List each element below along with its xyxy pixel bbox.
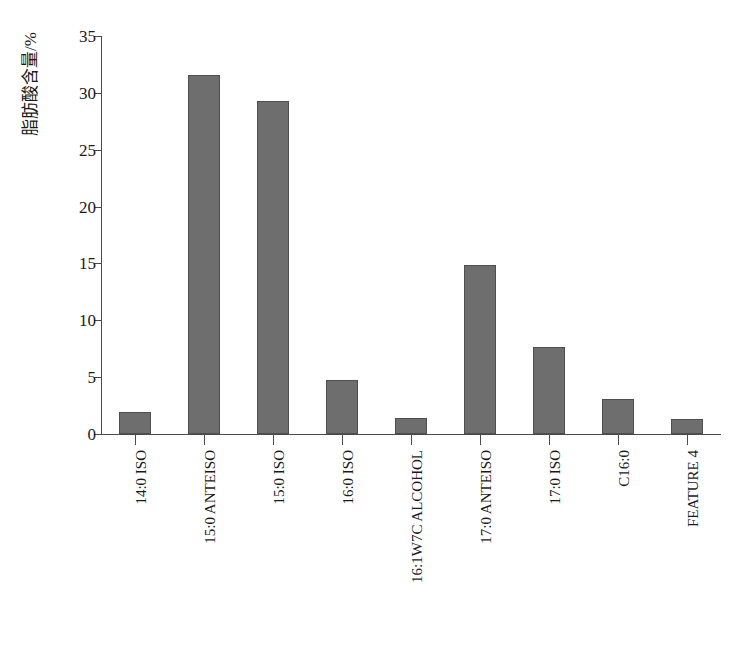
x-axis-tick (204, 434, 205, 445)
y-axis-title: 脂肪酸含量/% (14, 0, 48, 184)
bar (602, 399, 634, 434)
x-axis-tick-label-text: 17:0 ISO (547, 450, 562, 505)
bar-chart-figure: 脂肪酸含量/% 0510152025303514:0 ISO15:0 ANTEI… (0, 0, 732, 650)
y-axis-tick-label: 5 (88, 369, 97, 386)
x-axis-tick-label: 15:0 ANTEISO (210, 450, 225, 544)
x-axis-tick-label-text: 14:0 ISO (134, 450, 149, 505)
x-axis-tick-label-text: 16:0 ISO (341, 450, 356, 505)
x-axis-tick-label: 15:0 ISO (279, 450, 294, 505)
plot-area: 0510152025303514:0 ISO15:0 ANTEISO15:0 I… (101, 36, 721, 434)
bar (533, 347, 565, 434)
x-axis-tick (480, 434, 481, 445)
x-axis-tick (273, 434, 274, 445)
bar (119, 412, 151, 434)
y-axis-tick-label: 10 (79, 312, 96, 329)
x-axis-tick (135, 434, 136, 445)
y-axis-tick-label: 0 (88, 426, 97, 443)
x-axis-tick-label-text: 17:0 ANTEISO (478, 450, 493, 544)
x-axis-tick-label: 17:0 ISO (555, 450, 570, 505)
y-axis-tick-label: 15 (79, 255, 96, 272)
y-axis-tick-label: 25 (79, 141, 96, 158)
x-axis-tick-label-text: FEATURE 4 (685, 450, 700, 527)
y-axis-tick-label: 35 (79, 28, 96, 45)
x-axis-tick-label: 14:0 ISO (141, 450, 156, 505)
bar (188, 75, 220, 434)
x-axis-tick (342, 434, 343, 445)
bar (257, 101, 289, 434)
x-axis-tick-label-text: 16:1W7C ALCOHOL (410, 450, 425, 583)
x-axis-tick (549, 434, 550, 445)
x-axis-tick-label-text: 15:0 ANTEISO (203, 450, 218, 544)
x-axis-tick-label: FEATURE 4 (693, 450, 708, 527)
x-axis-tick-label: 17:0 ANTEISO (486, 450, 501, 544)
x-axis-tick-label-text: C16:0 (616, 450, 631, 487)
bar (326, 380, 358, 434)
x-axis-tick (687, 434, 688, 445)
x-axis-tick-label-text: 15:0 ISO (272, 450, 287, 505)
bar (671, 419, 703, 434)
x-axis-tick-label: C16:0 (624, 450, 639, 487)
bar (395, 418, 427, 434)
bar (464, 265, 496, 434)
x-axis-tick-label: 16:1W7C ALCOHOL (417, 450, 432, 583)
y-axis-tick-label: 20 (79, 198, 96, 215)
x-axis-tick (411, 434, 412, 445)
x-axis-tick-label: 16:0 ISO (348, 450, 363, 505)
y-axis-tick-label: 30 (79, 84, 96, 101)
x-axis-tick (618, 434, 619, 445)
